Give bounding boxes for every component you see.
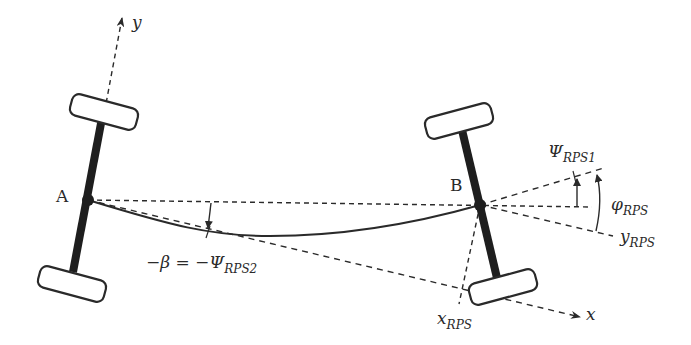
x-rps-subscript: RPS [447, 318, 472, 332]
point-a-label: A [56, 188, 68, 205]
horizontal-reference-line [88, 200, 592, 207]
y-rps-main: y [620, 226, 630, 246]
phi-rps-label: φRPS [611, 196, 648, 213]
vehicle-path-curve [88, 200, 480, 236]
y-rps-subscript: RPS [630, 236, 655, 250]
x-rps-label: xRPS [437, 310, 472, 327]
point-b-label: B [450, 177, 463, 194]
y-axis-label: y [132, 14, 142, 31]
beta-angle-arrow [208, 203, 211, 228]
phi-rps-main: φ [611, 194, 623, 214]
path-tangent-line [480, 168, 604, 205]
y-rps-label: yRPS [620, 228, 655, 245]
psi-rps1-label: ΨRPS1 [548, 143, 596, 160]
wheel-b-bottom [467, 268, 538, 307]
point-b-marker [474, 199, 486, 211]
phi-rps-arc-arrow [596, 175, 600, 231]
beta-equation-subscript: RPS2 [224, 262, 257, 276]
diagram-svg [0, 0, 691, 345]
diagram-canvas: y x A B −β = −ΨRPS2 ΨRPS1 φRPS yRPS xRPS [0, 0, 691, 345]
psi-rps1-subscript: RPS1 [563, 151, 596, 165]
x-axis-label: x [586, 306, 596, 323]
phi-rps-subscript: RPS [623, 204, 648, 218]
y-rps-axis [480, 205, 613, 236]
psi-rps1-main: Ψ [548, 141, 563, 161]
beta-equation-label: −β = −ΨRPS2 [146, 254, 257, 271]
beta-equation-main: −β = −Ψ [146, 252, 224, 272]
point-a-marker [82, 194, 94, 206]
x-rps-main: x [437, 308, 447, 328]
